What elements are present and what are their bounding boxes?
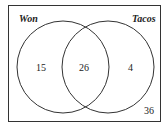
intersection-count: 26 bbox=[79, 62, 89, 73]
won-only-count: 15 bbox=[36, 62, 46, 73]
won-circle bbox=[17, 21, 109, 113]
outside-count: 36 bbox=[144, 105, 154, 116]
won-set-label: Won bbox=[19, 13, 38, 24]
tacos-set-label: Tacos bbox=[132, 13, 156, 24]
tacos-circle bbox=[62, 21, 154, 113]
tacos-only-count: 4 bbox=[128, 62, 133, 73]
